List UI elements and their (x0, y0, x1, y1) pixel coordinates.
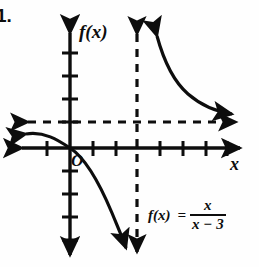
rational-function-figure: 1. (0, 0, 259, 267)
function-equation: f(x) = x x − 3 (148, 198, 226, 232)
curve-right-branch (157, 36, 232, 114)
origin-label: O (71, 152, 83, 169)
y-axis-label: f(x) (79, 22, 107, 41)
equation-fraction: x x − 3 (190, 198, 226, 232)
fraction-denominator: x − 3 (190, 216, 226, 232)
x-axis-label: x (230, 155, 239, 173)
equals-sign: = (178, 208, 187, 223)
x-axis (22, 141, 240, 156)
fraction-numerator: x (199, 198, 217, 214)
equation-left-side: f(x) (148, 208, 171, 223)
